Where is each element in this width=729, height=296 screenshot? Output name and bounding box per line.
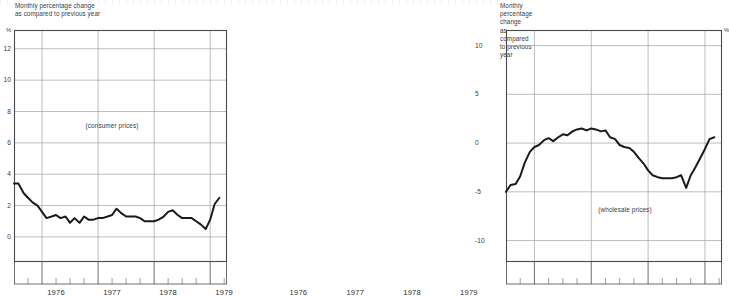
y-tick-label: 0: [475, 139, 491, 146]
data-series-line: [506, 128, 714, 191]
y-tick-label: 10: [0, 76, 11, 83]
panel-consumer-prices: Monthly percentage change as compared to…: [0, 0, 250, 296]
y-tick-label: 5: [475, 90, 491, 97]
y-tick-label: 0: [0, 233, 11, 240]
x-tick-label: 1977: [338, 288, 372, 296]
x-tick-label: 1979: [452, 288, 486, 296]
chart-svg-consumer: [14, 30, 227, 284]
y-tick-label: 6: [0, 139, 11, 146]
x-tick-label: 1978: [395, 288, 429, 296]
y-tick-label: 10: [475, 42, 491, 49]
panel-wholesale-prices: Monthly percentage change as compared to…: [250, 0, 500, 296]
x-tick-label: 1976: [39, 288, 73, 296]
plot-area-consumer: [14, 30, 227, 262]
plot-area-wholesale: [506, 30, 722, 262]
series-note-wholesale: (wholesale prices): [575, 206, 675, 213]
x-tick-label: 1976: [281, 288, 315, 296]
y-axis-unit-right: %: [724, 27, 729, 33]
y-tick-label: 12: [0, 45, 11, 52]
y-tick-label: -5: [475, 188, 491, 195]
chart-svg-wholesale: [506, 30, 722, 284]
x-tick-label: 1979: [207, 288, 241, 296]
caption-consumer: Monthly percentage change as compared to…: [15, 2, 100, 18]
x-tick-label: 1978: [151, 288, 185, 296]
plot-frame: [15, 31, 227, 262]
y-tick-label: 8: [0, 108, 11, 115]
series-note-consumer: (consumer prices): [62, 122, 162, 129]
data-series-line: [14, 184, 219, 229]
y-tick-label: -10: [475, 237, 491, 244]
y-axis-unit-left: %: [6, 27, 11, 33]
y-tick-label: 2: [0, 202, 11, 209]
x-tick-label: 1977: [95, 288, 129, 296]
y-tick-label: 4: [0, 170, 11, 177]
